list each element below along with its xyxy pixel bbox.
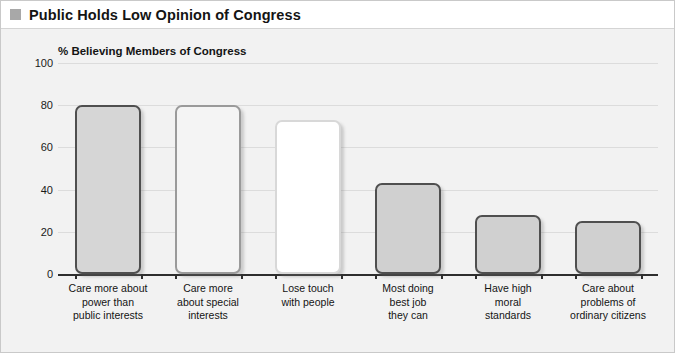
x-axis-label: Lose touchwith people [250,282,366,309]
axis-tick [241,274,243,279]
y-axis-tick-label: 100 [9,57,53,69]
axis-tick [75,274,77,279]
x-axis-label: Care moreabout specialinterests [150,282,266,323]
square-bullet-icon [10,9,21,20]
bar [475,215,541,274]
bar [575,221,641,274]
axis-tick [475,274,477,279]
bar-series [58,63,658,274]
x-axis-labels: Care more aboutpower thanpublic interest… [58,282,658,342]
axis-tick [175,274,177,279]
y-axis-ticks: 100806040200 [6,63,53,274]
axis-tick [575,274,577,279]
chart-figure: Public Holds Low Opinion of Congress % B… [0,0,675,353]
axis-tick [641,274,643,279]
axis-tick [441,274,443,279]
y-axis-tick-label: 60 [9,141,53,153]
x-axis-label: Care more aboutpower thanpublic interest… [50,282,166,323]
bar [175,105,241,274]
y-axis-tick-label: 0 [9,268,53,280]
axis-tick [541,274,543,279]
axis-tick [375,274,377,279]
y-axis-tick-label: 80 [9,99,53,111]
x-axis-label: Most doingbest jobthey can [350,282,466,323]
bar [75,105,141,274]
x-axis-label: Have highmoralstandards [450,282,566,323]
bar [375,183,441,274]
y-axis-tick-label: 40 [9,184,53,196]
axis-tick [141,274,143,279]
axis-tick [341,274,343,279]
axis-baseline [58,274,658,276]
axis-tick [275,274,277,279]
x-axis-label: Care aboutproblems ofordinary citizens [550,282,666,323]
y-axis-tick-label: 20 [9,226,53,238]
bar [275,120,341,274]
